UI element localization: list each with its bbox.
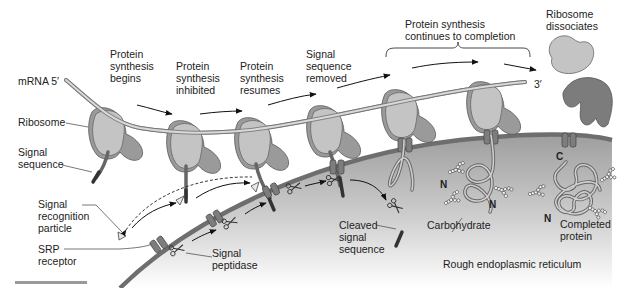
step-begins-label: Protein synthesis begins: [110, 48, 157, 84]
step-removed-label: Signal sequence removed: [306, 48, 354, 84]
ribosome-1: [89, 108, 143, 161]
dissociated-large-subunit: [563, 78, 612, 127]
step-completion-label: Protein synthesis continues to completio…: [405, 18, 515, 42]
srp-particle-bound: [176, 196, 184, 205]
srp-receptor-label: SRP receptor: [38, 243, 77, 267]
signal-sequence-label: Signal sequence: [18, 146, 64, 170]
step-resumes-label: Protein synthesis resumes: [240, 60, 287, 96]
decorative-bar: [15, 281, 87, 284]
completion-brace: [386, 42, 530, 57]
ribosome-2: [167, 121, 221, 174]
ribosome-label: Ribosome: [18, 116, 65, 128]
svg-text:N: N: [489, 199, 496, 210]
mrna-5-label: mRNA 5′: [18, 75, 59, 87]
dissociated-small-subunit: [549, 36, 593, 74]
srp-label: Signal recognition particle: [38, 198, 92, 234]
step-inhibited-label: Protein synthesis inhibited: [176, 60, 223, 96]
c-terminus-label: C: [556, 151, 563, 162]
srp-particle-free: [118, 232, 126, 240]
carbohydrate-label: Carbohydrate: [427, 219, 491, 231]
svg-text:N: N: [544, 213, 551, 224]
step-dissociates-label: Ribosome dissociates: [546, 8, 598, 32]
mrna-3-label: 3′: [534, 78, 542, 90]
rough-er-label: Rough endoplasmic reticulum: [443, 258, 582, 270]
n-terminus-label: N: [440, 179, 447, 190]
er-protein-synthesis-diagram: mRNA 5′ 3′ Ribosome Signal sequence Sign…: [0, 0, 636, 288]
